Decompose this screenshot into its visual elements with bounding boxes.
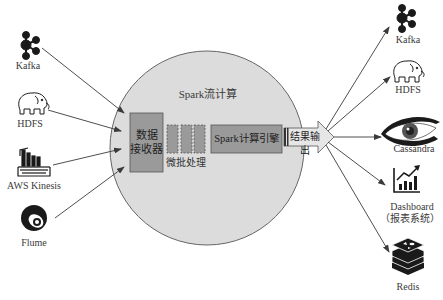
redis-icon (392, 238, 424, 275)
arrow-redis-out (326, 145, 389, 252)
diagram-title: Spark流计算 (170, 88, 246, 100)
arrow-hdfs-in (48, 110, 121, 131)
sink-label-cassandra: Cassandra (388, 143, 440, 155)
micro-batch-boxes (167, 125, 205, 153)
hadoop-elephant-icon (394, 61, 424, 82)
result-output-label: 结果输出 (289, 130, 321, 158)
arrow-hdfs-out (328, 77, 390, 131)
receiver-label-line2: 接收器 (128, 142, 165, 156)
receiver-label-line1: 数据 (130, 128, 163, 142)
sink-sublabel-dashboard: （报表系统） (378, 213, 442, 225)
arrow-flume-in (55, 167, 124, 218)
cassandra-eye-icon (381, 117, 440, 146)
sink-label-dashboard: Dashboard (384, 201, 440, 213)
source-label-hdfs: HDFS (14, 118, 46, 130)
kafka-icon (21, 32, 40, 60)
source-label-kafka: Kafka (10, 60, 46, 72)
kafka-icon (397, 5, 416, 33)
source-label-flume: Flume (16, 237, 52, 249)
spark-engine-label: Spark计算引擎 (211, 132, 282, 146)
arrow-kafka-out (326, 27, 389, 129)
diagram-canvas (0, 0, 443, 300)
sink-label-hdfs: HDFS (390, 84, 426, 96)
aws-kinesis-icon (18, 148, 50, 176)
sink-label-kafka: Kafka (390, 34, 426, 46)
hadoop-elephant-icon (19, 93, 49, 114)
arrow-kafka-in (42, 48, 124, 113)
dashboard-chart-icon (394, 165, 420, 192)
sink-label-redis: Redis (392, 281, 424, 293)
flume-icon (21, 205, 47, 231)
micro-batch-label: 微批处理 (163, 157, 209, 169)
source-label-aws-kinesis: AWS Kinesis (4, 180, 64, 192)
